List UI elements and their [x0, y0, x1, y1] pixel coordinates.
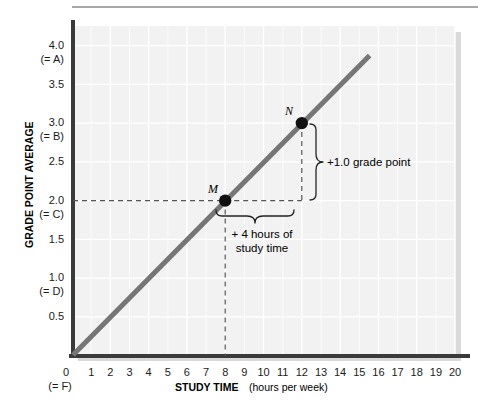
x-axis-title-units: (hours per week): [249, 381, 328, 393]
study-time-gpa-chart: +1.0 grade point + 4 hours of study time…: [0, 0, 478, 407]
x-tick-15: 15: [353, 366, 365, 378]
x-tick-18: 18: [411, 366, 423, 378]
x-tick-3: 3: [126, 366, 132, 378]
x-tick-7: 7: [203, 366, 209, 378]
y-tick-3.0-sub: (= B): [40, 130, 64, 142]
y-tick-2.5: 2.5: [49, 155, 64, 167]
origin-tick-zero: 0: [63, 366, 69, 378]
rise-annotation-label: +1.0 grade point: [327, 156, 411, 168]
y-tick-2.0-sub: (= C): [39, 208, 64, 220]
data-point-n[interactable]: [296, 117, 308, 129]
run-annotation-label-line2: study time: [236, 242, 288, 254]
y-tick-1.5: 1.5: [49, 233, 64, 245]
data-point-m-label: M: [207, 182, 219, 196]
x-axis-title: STUDY TIME: [175, 381, 238, 393]
x-tick-13: 13: [315, 366, 327, 378]
y-tick-4.0: 4.0: [49, 39, 64, 51]
y-tick-2.0: 2.0: [49, 194, 64, 206]
y-tick-3.0: 3.0: [49, 116, 64, 128]
y-tick-1.0: 1.0: [49, 271, 64, 283]
y-tick-0.5: 0.5: [49, 310, 64, 322]
x-axis-tick-labels: 1 2 3 4 5 6 7 8 9 10 11 12 13 14 15 16 1…: [88, 366, 461, 378]
x-tick-6: 6: [184, 366, 190, 378]
y-tick-4.0-sub: (= A): [40, 53, 64, 65]
x-tick-4: 4: [146, 366, 152, 378]
data-point-n-label: N: [284, 104, 294, 118]
x-tick-8: 8: [222, 366, 228, 378]
x-tick-17: 17: [391, 366, 403, 378]
data-point-m[interactable]: [219, 194, 231, 206]
x-tick-5: 5: [165, 366, 171, 378]
origin-tick-zero-sub: (= F): [48, 380, 72, 392]
x-tick-20: 20: [449, 366, 461, 378]
y-axis-tick-labels: 4.0 (= A) 3.5 3.0 (= B) 2.5 2.0 (= C) 1.…: [39, 39, 64, 322]
plot-shadow-right: [455, 32, 461, 358]
x-tick-2: 2: [107, 366, 113, 378]
x-tick-12: 12: [296, 366, 308, 378]
y-tick-3.5: 3.5: [49, 78, 64, 90]
x-tick-19: 19: [430, 366, 442, 378]
figure-container: +1.0 grade point + 4 hours of study time…: [0, 0, 478, 407]
y-tick-1.0-sub: (= D): [39, 285, 64, 297]
x-tick-9: 9: [241, 366, 247, 378]
x-tick-1: 1: [88, 366, 94, 378]
x-tick-14: 14: [334, 366, 346, 378]
run-annotation-label-line1: + 4 hours of: [231, 228, 293, 240]
y-axis-title: GRADE POINT AVERAGE: [23, 121, 35, 248]
x-tick-11: 11: [277, 366, 288, 378]
x-tick-16: 16: [372, 366, 384, 378]
x-tick-10: 10: [257, 366, 269, 378]
